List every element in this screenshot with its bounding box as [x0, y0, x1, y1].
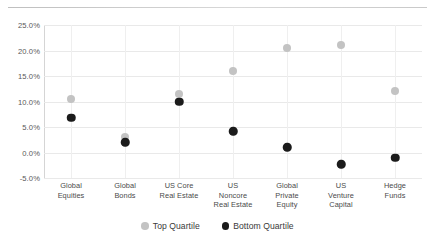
y-axis-tick-label: 0.0%	[22, 148, 40, 157]
data-point[interactable]	[67, 95, 75, 103]
data-point[interactable]	[229, 127, 238, 136]
x-axis-tick-label: Hedge Funds	[359, 181, 431, 200]
data-point[interactable]	[283, 44, 291, 52]
y-axis-tick-label: 10.0%	[18, 97, 40, 106]
data-point[interactable]	[121, 138, 130, 147]
gridline-vertical	[233, 25, 234, 178]
legend-item[interactable]: Bottom Quartile	[222, 221, 294, 231]
data-point[interactable]	[175, 97, 184, 106]
legend-dot-top-quartile-icon	[141, 222, 149, 230]
y-axis-tick-label: 20.0%	[18, 46, 40, 55]
data-point[interactable]	[391, 153, 400, 162]
chart-container: 25.0%20.0%15.0%10.0%5.0%0.0%-5.0% Global…	[0, 0, 435, 251]
legend-label: Bottom Quartile	[233, 221, 293, 231]
header-divider	[8, 7, 427, 8]
y-axis-tick-labels: 25.0%20.0%15.0%10.0%5.0%0.0%-5.0%	[0, 25, 40, 178]
y-axis-tick-label: 25.0%	[18, 21, 40, 30]
data-point[interactable]	[67, 114, 76, 123]
data-point[interactable]	[337, 41, 345, 49]
legend-label: Top Quartile	[153, 221, 200, 231]
data-point[interactable]	[337, 160, 346, 169]
plot-area	[44, 25, 422, 178]
x-axis-tick-labels: Global EquitiesGlobal BondsUS Core Real …	[44, 181, 422, 219]
data-point[interactable]	[229, 67, 237, 75]
chart-legend: Top QuartileBottom Quartile	[0, 221, 435, 231]
y-axis-tick-label: 5.0%	[22, 123, 40, 132]
legend-item[interactable]: Top Quartile	[141, 221, 199, 231]
y-axis-tick-label: 15.0%	[18, 72, 40, 81]
legend-dot-bottom-quartile-icon	[222, 222, 230, 230]
data-point[interactable]	[283, 143, 292, 152]
gridline-vertical	[125, 25, 126, 178]
data-point[interactable]	[391, 87, 399, 95]
gridline-horizontal	[44, 178, 422, 179]
